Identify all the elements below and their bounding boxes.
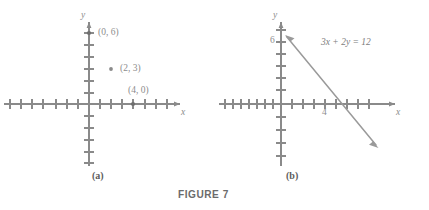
- y-intercept-marker: [279, 40, 282, 43]
- point-label-0-6: (0, 6): [98, 28, 119, 38]
- equation-line: [287, 37, 377, 146]
- panel-a-scatter: (0, 6) (2, 3) (4, 0) x y (a): [0, 0, 214, 185]
- y-axis-arrow: [279, 22, 284, 28]
- x-axis-arrow: [174, 102, 180, 107]
- equation-label: 3x + 2y = 12: [321, 38, 371, 48]
- figure-caption: FIGURE 7: [178, 188, 229, 200]
- y-axis-arrow: [87, 22, 92, 28]
- equation-line-arrow-end: [369, 141, 379, 148]
- panel-b-line-graph: 3x + 2y = 12 6 4 x y (b): [215, 0, 429, 185]
- data-point-4-0: [131, 102, 135, 106]
- x-intercept-label: 4: [322, 108, 327, 118]
- x-intercept-marker: [323, 102, 326, 105]
- point-label-2-3: (2, 3): [120, 64, 141, 74]
- x-axis-arrow: [389, 102, 395, 107]
- x-axis-label: x: [396, 108, 400, 118]
- y-axis-label: y: [81, 11, 85, 21]
- y-intercept-label: 6: [270, 36, 275, 46]
- y-axis-label: y: [273, 11, 277, 21]
- equation-line-arrow-start: [285, 35, 295, 42]
- data-point-2-3: [109, 67, 113, 71]
- x-axis-label: x: [181, 108, 185, 118]
- figure-7: (0, 6) (2, 3) (4, 0) x y (a): [0, 0, 429, 210]
- panel-b-caption: (b): [286, 170, 298, 181]
- data-point-0-6: [87, 31, 91, 35]
- panel-b-plot: [215, 0, 429, 185]
- panel-a-caption: (a): [92, 170, 104, 181]
- point-label-4-0: (4, 0): [128, 86, 149, 96]
